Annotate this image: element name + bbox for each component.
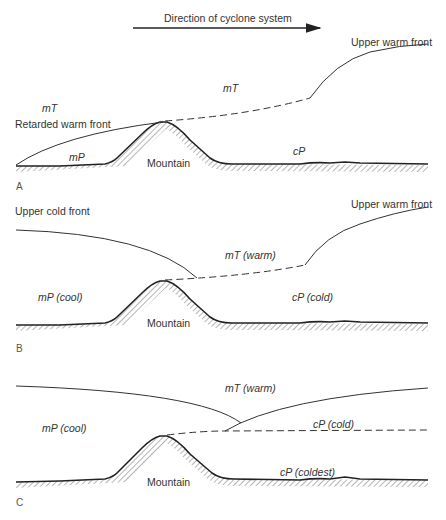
panel-c-mt-warm-label: mT (warm) [225, 383, 276, 394]
panel-b-cp-cold-label: cP (cold) [292, 292, 333, 303]
panel-a-upper-warm-front-label: Upper warm front [351, 37, 432, 48]
panel-b-letter: B [16, 344, 23, 354]
panel-a-mp-label: mP [69, 152, 85, 163]
direction-label: Direction of cyclone system [164, 13, 292, 24]
panel-a-mountain-label: Mountain [147, 158, 190, 169]
panel-c-mountain-label: Mountain [147, 477, 190, 488]
panel-c-cp-cold-label: cP (cold) [313, 419, 354, 430]
upper-cold-front-line-c [16, 386, 241, 423]
panel-a-mt-left-label: mT [42, 103, 57, 114]
panel-b-upper-cold-front-label: Upper cold front [15, 206, 90, 217]
panel-a-letter: A [16, 182, 23, 192]
upper-warm-front-dashed-a [165, 98, 310, 121]
panel-b [16, 207, 428, 331]
panel-c [16, 386, 428, 488]
terrain-b [16, 281, 428, 325]
panel-c-letter: C [16, 498, 23, 508]
upper-cold-front-line [16, 230, 197, 278]
panel-b-mt-warm-label: mT (warm) [225, 250, 276, 261]
panel-c-cp-coldest-label: cP (coldest) [280, 467, 335, 478]
panel-a-retarded-warm-front-label: Retarded warm front [15, 119, 111, 130]
upper-warm-front-dashed-b [165, 265, 305, 280]
panel-a-cp-label: cP [293, 146, 305, 157]
panel-b-mountain-label: Mountain [147, 318, 190, 329]
cyclone-mountain-diagram [0, 0, 446, 520]
panel-a-mt-center-label: mT [223, 83, 238, 94]
panel-b-mp-cool-label: mP (cool) [38, 292, 83, 303]
panel-b-upper-warm-front-label: Upper warm front [351, 199, 432, 210]
panel-c-mp-cool-label: mP (cool) [42, 423, 87, 434]
cold-front-dashed-c [167, 430, 428, 435]
upper-warm-front-solid-b [305, 207, 428, 265]
terrain-c [16, 436, 428, 482]
upper-warm-front-solid-a [310, 44, 428, 98]
